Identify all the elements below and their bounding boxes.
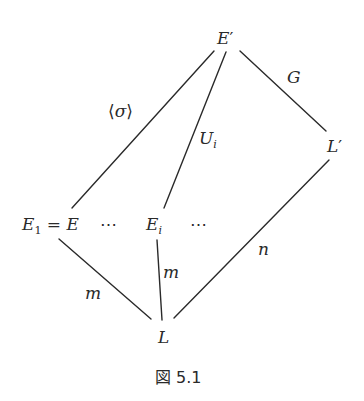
edge-label-m-left: m	[85, 285, 101, 302]
node-e-rhs: E	[66, 214, 78, 234]
ui-subscript: i	[213, 138, 217, 151]
sigma-symbol: σ	[115, 101, 127, 121]
ellipsis-left: ⋯	[100, 216, 117, 233]
ui-base: U	[199, 128, 213, 148]
angle-close: ⟩	[126, 101, 133, 121]
prime-mark: ′	[338, 136, 342, 156]
edge-label-m-mid: m	[163, 264, 179, 281]
node-l: L	[158, 329, 169, 346]
edge-left-bottom	[59, 239, 151, 319]
figure-caption: 図 5.1	[155, 364, 202, 388]
edge-label-ui: Ui	[199, 130, 217, 150]
edge-label-sigma: ⟨σ⟩	[108, 103, 133, 120]
edge-label-n: n	[258, 241, 269, 258]
equals-sign: =	[47, 214, 61, 234]
node-l-prime: L′	[327, 138, 342, 155]
node-e-prime: E′	[217, 30, 233, 47]
edge-top-left	[72, 51, 214, 208]
edge-right-bottom	[174, 160, 329, 318]
edge-top-right	[240, 51, 326, 131]
diagram-lines	[0, 0, 364, 401]
node-ei: Ei	[146, 216, 162, 236]
angle-open: ⟨	[108, 101, 115, 121]
node-ei-subscript: i	[158, 224, 162, 237]
edge-label-g: G	[287, 69, 301, 86]
node-e-prime-base: E	[217, 28, 229, 48]
ellipsis-right: ⋯	[190, 216, 207, 233]
node-e1-subscript: 1	[34, 224, 41, 237]
prime-mark: ′	[229, 28, 233, 48]
node-e1-equals-e: E1 = E	[22, 216, 79, 236]
node-l-prime-base: L	[327, 136, 338, 156]
node-e1-base: E	[22, 214, 34, 234]
node-ei-base: E	[146, 214, 158, 234]
edge-mid-bottom	[157, 240, 162, 320]
